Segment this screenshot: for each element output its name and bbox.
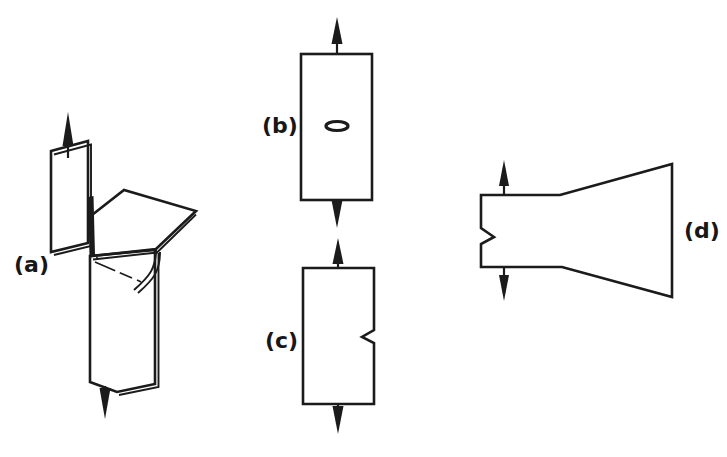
panel-d-tapered-beam <box>481 164 672 297</box>
arrow-down-icon <box>332 200 343 228</box>
arrow-down-icon <box>499 267 509 301</box>
panel-c-specimen: (c) <box>265 238 374 434</box>
figure-canvas: (a) (b) <box>0 0 727 457</box>
panel-label-c: (c) <box>265 328 298 353</box>
panel-c-plate <box>303 268 374 404</box>
panel-d-specimen: (d) <box>481 160 720 301</box>
panel-a-fold-dot <box>96 257 98 259</box>
arrow-up-icon <box>499 160 509 195</box>
panel-a-fold-dashline <box>95 262 132 278</box>
ellipse-crack-icon <box>326 122 348 131</box>
panel-a-lower-leg <box>90 250 155 392</box>
panel-b-specimen: (b) <box>262 17 372 228</box>
panel-a-fold-dashdot <box>137 280 141 282</box>
panel-label-b: (b) <box>262 113 298 138</box>
arrow-down-icon <box>333 404 344 434</box>
arrow-up-icon <box>333 238 344 268</box>
panel-a-specimen: (a) <box>14 112 196 419</box>
panel-a-upper-left-flap-thickness <box>54 145 91 256</box>
arrow-down-icon <box>100 386 111 419</box>
panel-a-right-wing <box>92 190 196 256</box>
panel-a-upper-left-flap <box>51 141 88 252</box>
panel-label-d: (d) <box>684 218 720 243</box>
panel-label-a: (a) <box>14 252 49 277</box>
arrow-up-icon <box>332 17 343 54</box>
panel-a-right-wing-thickness <box>93 215 196 260</box>
panel-a-fold-curve-thickness <box>138 252 160 293</box>
figure-root: (a) (b) <box>0 0 727 457</box>
